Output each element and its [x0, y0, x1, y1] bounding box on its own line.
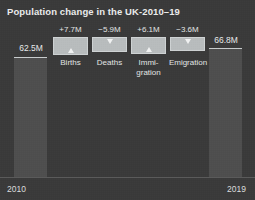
- triangle-up-icon-immigration: [146, 47, 152, 52]
- category-label-emigration: Emigration: [166, 58, 210, 68]
- value-label-2010: 62.5M: [10, 43, 52, 53]
- bar-births[interactable]: [53, 37, 88, 55]
- triangle-up-icon-births: [68, 48, 74, 53]
- triangle-down-icon-deaths: [107, 39, 113, 44]
- x-axis-line: [0, 177, 255, 178]
- category-label-immigration: Immi- gration: [128, 58, 169, 77]
- category-label-immigration-line2: gration: [136, 68, 160, 77]
- axis-tick-2010: 2010: [7, 184, 26, 194]
- bar-total-2010[interactable]: [14, 57, 47, 178]
- value-label-immigration: +6.1M: [130, 25, 167, 34]
- bar-immigration[interactable]: [131, 37, 166, 54]
- triangle-down-icon-emigration: [185, 39, 191, 44]
- value-label-2019: 66.8M: [205, 35, 247, 45]
- plot-area: 62.5M +7.7M Births −5.9M Deaths +6.1M Im…: [0, 0, 255, 200]
- category-label-deaths: Deaths: [89, 58, 130, 68]
- value-label-births: +7.7M: [52, 25, 89, 34]
- waterfall-chart: Population change in the UK-2010–19 62.5…: [0, 0, 255, 200]
- chart-title: Population change in the UK-2010–19: [7, 6, 180, 17]
- category-label-immigration-line1: Immi-: [139, 58, 159, 67]
- axis-tick-2019: 2019: [227, 184, 246, 194]
- bar-total-2019[interactable]: [209, 48, 242, 178]
- category-label-births: Births: [50, 58, 91, 68]
- bar-deaths[interactable]: [92, 37, 127, 52]
- value-label-deaths: −5.9M: [91, 25, 128, 34]
- value-label-emigration: −3.6M: [169, 25, 206, 34]
- bar-emigration[interactable]: [170, 37, 205, 51]
